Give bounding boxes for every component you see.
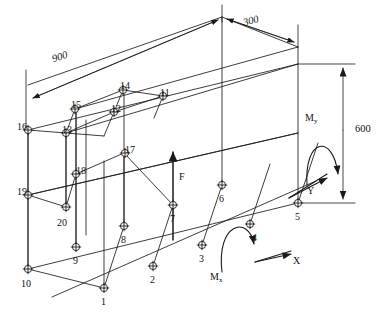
node-label-6: 6: [219, 194, 224, 204]
node-marker-3: [197, 240, 207, 250]
node-label-1: 1: [101, 297, 106, 307]
axis-x-label: X: [293, 256, 300, 266]
moment-mx-label: Mx: [210, 272, 222, 285]
node-label-4: 4: [252, 233, 257, 243]
diagram-canvas: 1234567891011121314151617181920 900 300 …: [0, 0, 389, 321]
node-label-16: 16: [17, 122, 27, 132]
node-marker-5: [293, 198, 303, 208]
node-label-14: 14: [120, 81, 130, 91]
node-label-10: 10: [21, 279, 31, 289]
node-marker-10: [23, 264, 33, 274]
node-marker-4: [245, 219, 255, 229]
node-marker-6: [217, 180, 227, 190]
node-label-20: 20: [57, 218, 67, 228]
dimension-600-label: 600: [355, 124, 371, 134]
top-deck-lines: [28, 17, 298, 136]
node-marker-1: [99, 283, 109, 293]
mid-level-lines: [28, 133, 298, 207]
node-marker-8: [119, 221, 129, 231]
moment-mx-subscript: x: [219, 276, 223, 284]
node-label-19: 19: [17, 187, 27, 197]
node-marker-2: [148, 261, 158, 271]
moment-my-label: My: [305, 113, 317, 126]
node-label-5: 5: [295, 212, 300, 222]
node-label-2: 2: [150, 275, 155, 285]
node-label-9: 9: [73, 256, 78, 266]
moment-my-arc: [307, 146, 338, 185]
node-label-3: 3: [199, 254, 204, 264]
moment-mx-arc: [221, 227, 254, 272]
node-marker-20: [61, 202, 71, 212]
node-label-17: 17: [125, 145, 135, 155]
force-f-label: F: [179, 172, 185, 182]
node-label-11: 11: [160, 88, 170, 98]
moment-my-subscript: y: [314, 117, 318, 125]
node-label-15: 15: [71, 100, 81, 110]
node-label-8: 8: [121, 235, 126, 245]
moment-mx-symbol: M: [210, 271, 219, 282]
moment-my-symbol: M: [305, 112, 314, 123]
axis-x-arrow: [255, 251, 291, 262]
isometric-frame-drawing: [0, 0, 389, 321]
node-label-18: 18: [76, 166, 86, 176]
axis-y-label: Y: [307, 186, 314, 196]
node-marker-9: [71, 242, 81, 252]
node-label-12: 12: [111, 104, 121, 114]
node-label-7: 7: [170, 214, 175, 224]
node-label-13: 13: [62, 125, 72, 135]
